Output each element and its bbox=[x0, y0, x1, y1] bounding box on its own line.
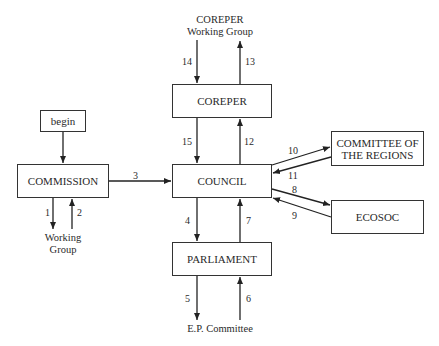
commission-label: COMMISSION bbox=[28, 175, 98, 187]
coreper-wg-line1: COREPER bbox=[168, 14, 272, 26]
edge-label-13: 13 bbox=[245, 56, 255, 67]
edge-label-11: 11 bbox=[288, 170, 298, 181]
ecosoc-label: ECOSOC bbox=[356, 211, 399, 223]
edge-label-15: 15 bbox=[182, 136, 192, 147]
committee-of-the-regions-node: COMMITTEE OF THE REGIONS bbox=[331, 131, 424, 166]
edge-label-7: 7 bbox=[246, 215, 251, 226]
wg-line1: Working bbox=[37, 232, 89, 244]
ep-committee-label: E.P. Committee bbox=[168, 323, 272, 335]
cor-label-line1: COMMITTEE OF bbox=[336, 137, 418, 149]
ep-committee-text: E.P. Committee bbox=[187, 323, 253, 334]
council-node: COUNCIL bbox=[172, 164, 272, 198]
edge-label-5: 5 bbox=[185, 293, 190, 304]
edge-label-4: 4 bbox=[185, 215, 190, 226]
coreper-working-group-label: COREPER Working Group bbox=[168, 14, 272, 38]
coreper-node: COREPER bbox=[172, 84, 272, 118]
edge-label-8: 8 bbox=[292, 184, 297, 195]
cor-label-line2: THE REGIONS bbox=[342, 149, 414, 161]
edge-label-1: 1 bbox=[45, 207, 50, 218]
edge-label-6: 6 bbox=[246, 293, 251, 304]
edge-label-14: 14 bbox=[182, 56, 192, 67]
parliament-node: PARLIAMENT bbox=[172, 242, 272, 276]
wg-line2: Group bbox=[37, 244, 89, 256]
edge-label-12: 12 bbox=[244, 136, 254, 147]
working-group-label: Working Group bbox=[37, 232, 89, 256]
ecosoc-node: ECOSOC bbox=[331, 200, 424, 234]
commission-node: COMMISSION bbox=[17, 164, 109, 198]
council-label: COUNCIL bbox=[198, 175, 247, 187]
begin-label: begin bbox=[51, 115, 75, 127]
edge-label-9: 9 bbox=[292, 210, 297, 221]
parliament-label: PARLIAMENT bbox=[187, 253, 257, 265]
coreper-label: COREPER bbox=[197, 95, 247, 107]
edge-label-3: 3 bbox=[133, 170, 138, 181]
coreper-wg-line2: Working Group bbox=[168, 26, 272, 38]
edge-label-2: 2 bbox=[77, 207, 82, 218]
edge-label-10: 10 bbox=[288, 145, 298, 156]
begin-node: begin bbox=[40, 110, 86, 132]
